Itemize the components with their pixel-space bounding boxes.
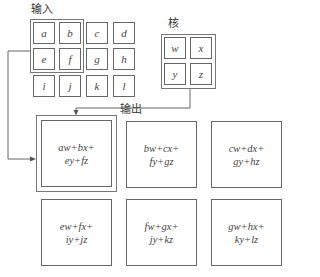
- output-expr-line1: bw+cx+: [144, 142, 180, 155]
- output-expr-line1: ew+fx+: [60, 220, 93, 233]
- output-cell-0-1: bw+cx+ fy+gz: [126, 121, 197, 188]
- output-cell-0-0: aw+bx+ ey+fz: [41, 120, 112, 187]
- output-expr-line2: gy+hz: [233, 155, 259, 168]
- output-cell-1-0: ew+fx+ iy+jz: [41, 199, 112, 266]
- output-cell-0-2: cw+dx+ gy+hz: [211, 121, 282, 188]
- output-expr-line2: ey+fz: [65, 154, 88, 167]
- output-expr-line2: fy+gz: [150, 155, 174, 168]
- output-expr-line1: cw+dx+: [229, 142, 265, 155]
- output-expr-line1: fw+gx+: [144, 220, 178, 233]
- output-expr-line2: ky+lz: [235, 233, 258, 246]
- output-expr-line1: aw+bx+: [58, 141, 94, 154]
- output-cell-1-1: fw+gx+ jy+kz: [126, 199, 197, 266]
- output-cell-1-2: gw+hx+ ky+lz: [211, 199, 282, 266]
- output-expr-line1: gw+hx+: [228, 220, 264, 233]
- output-expr-line2: iy+jz: [66, 233, 88, 246]
- output-expr-line2: jy+kz: [150, 233, 173, 246]
